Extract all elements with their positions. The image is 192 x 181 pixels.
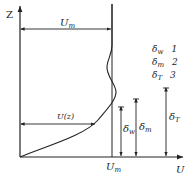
um-bottom-label: Um	[106, 162, 121, 174]
um-top-label: Um	[60, 18, 75, 30]
diagram-lines	[0, 0, 192, 181]
velocity-profile-diagram: Z Um U(z) δw δm δT Um U δw1 δm2 δT3	[0, 0, 192, 181]
z-axis-label: Z	[6, 10, 13, 20]
uz-label: U(z)	[57, 113, 74, 121]
legend-item-delta-m: δm2	[152, 57, 178, 69]
delta-t-label: δT	[169, 112, 180, 124]
u-axis-label: U	[176, 165, 184, 175]
legend-item-delta-t: δT3	[152, 70, 176, 82]
delta-m-label: δm	[139, 122, 152, 134]
delta-w-label: δw	[123, 124, 135, 136]
legend-item-delta-w: δw1	[152, 44, 177, 56]
